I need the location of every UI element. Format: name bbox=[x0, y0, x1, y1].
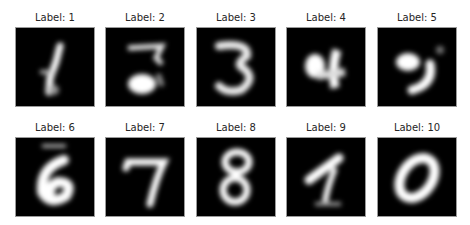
digit-image bbox=[15, 137, 95, 217]
digit-image bbox=[15, 27, 95, 107]
panel-title: Label: 4 bbox=[286, 12, 366, 24]
panel-title: Label: 1 bbox=[15, 12, 95, 24]
digit-image bbox=[196, 137, 276, 217]
digit-image bbox=[286, 137, 366, 217]
digit-image bbox=[105, 137, 185, 217]
digit-image bbox=[377, 137, 457, 217]
digit-image bbox=[286, 27, 366, 107]
digit-image bbox=[105, 27, 185, 107]
digit-image bbox=[196, 27, 276, 107]
panel-title: Label: 10 bbox=[377, 122, 457, 134]
digit-image bbox=[377, 27, 457, 107]
panel-title: Label: 8 bbox=[196, 122, 276, 134]
panel-title: Label: 5 bbox=[377, 12, 457, 24]
panel-title: Label: 2 bbox=[105, 12, 185, 24]
panel-title: Label: 7 bbox=[105, 122, 185, 134]
panel-title: Label: 3 bbox=[196, 12, 276, 24]
panel-title: Label: 6 bbox=[15, 122, 95, 134]
panel-title: Label: 9 bbox=[286, 122, 366, 134]
